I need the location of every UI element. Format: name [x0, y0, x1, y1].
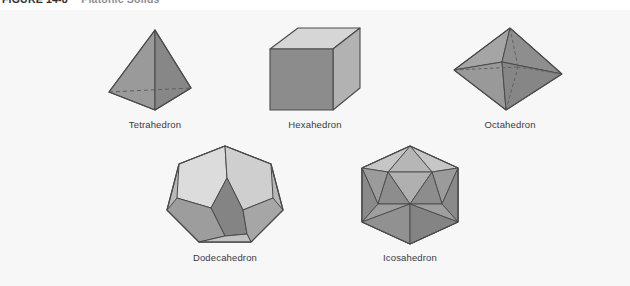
octahedron-label: Octahedron [440, 119, 580, 130]
icosahedron-icon [340, 142, 480, 250]
solid-hexahedron: Hexahedron [250, 22, 380, 130]
figure-number-label: FIGURE 14-8 [2, 0, 68, 5]
dodecahedron-icon [155, 142, 295, 250]
tetrahedron-icon [95, 22, 215, 117]
solid-tetrahedron: Tetrahedron [95, 22, 215, 130]
figure-panel: Tetrahedron Hexahedron [0, 10, 630, 286]
solid-octahedron: Octahedron [440, 22, 580, 130]
figure-container: FIGURE 14-8 Platonic Solids Tetrahedron [0, 0, 630, 286]
tetrahedron-label: Tetrahedron [95, 119, 215, 130]
hexahedron-label: Hexahedron [250, 119, 380, 130]
icosahedron-label: Icosahedron [340, 252, 480, 263]
figure-caption: FIGURE 14-8 Platonic Solids [0, 0, 630, 9]
figure-title: Platonic Solids [81, 0, 159, 5]
hexahedron-icon [250, 22, 380, 117]
dodecahedron-label: Dodecahedron [155, 252, 295, 263]
solid-icosahedron: Icosahedron [340, 142, 480, 263]
solid-dodecahedron: Dodecahedron [155, 142, 295, 263]
octahedron-icon [440, 22, 580, 117]
